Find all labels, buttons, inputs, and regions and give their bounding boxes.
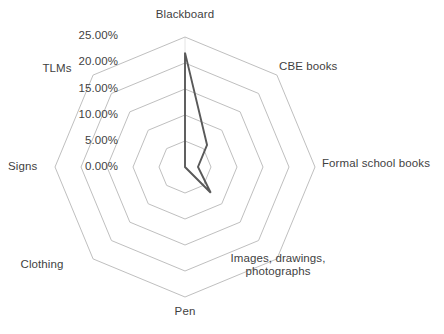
radar-axis-label-0: Blackboard — [125, 8, 245, 21]
radar-tick-label-2: 15.00% — [68, 82, 118, 95]
radar-tick-label-1: 20.00% — [68, 55, 118, 68]
series-polygon-0 — [185, 53, 211, 193]
radar-axis-label-5: Clothing — [7, 258, 77, 271]
radar-tick-label-4: 5.00% — [68, 134, 118, 147]
radar-axis-label-3: Images, drawings, photographs — [223, 252, 333, 278]
radar-tick-label-5: 0.00% — [68, 160, 118, 173]
radar-axis-label-1: CBE books — [279, 60, 399, 73]
radar-axis-label-6: Signs — [8, 160, 63, 173]
radar-axis-label-2: Formal school books — [322, 157, 444, 170]
radar-tick-label-3: 10.00% — [68, 108, 118, 121]
radar-axis-label-4: Pen — [155, 305, 215, 318]
radar-chart: BlackboardCBE booksFormal school booksIm… — [0, 0, 444, 334]
radar-tick-label-0: 25.00% — [68, 29, 118, 42]
radar-series-polyline — [185, 53, 211, 193]
